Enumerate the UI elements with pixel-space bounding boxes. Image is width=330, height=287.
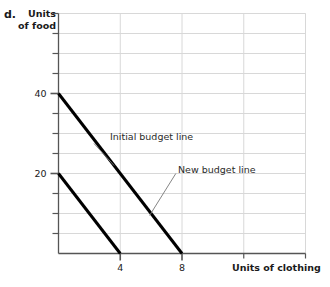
annotation-initial-budget-line: Initial budget line <box>110 131 193 142</box>
x-tick-label: 8 <box>174 262 190 273</box>
leader-line-1 <box>150 174 176 216</box>
chart-plot-area <box>0 0 330 287</box>
figure-container: d. Units of food Units of clothing 2040 … <box>0 0 330 287</box>
annotation-new-budget-line: New budget line <box>178 164 256 175</box>
y-tick-label: 40 <box>23 88 47 99</box>
y-tick-label: 20 <box>23 168 47 179</box>
leader-line-0 <box>94 144 114 166</box>
x-tick-label: 4 <box>112 262 128 273</box>
